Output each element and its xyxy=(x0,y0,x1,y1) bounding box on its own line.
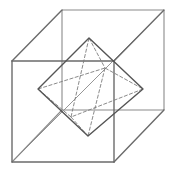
diagram-canvas: Octahedron inscribed in a cube xyxy=(0,0,177,169)
cube-octahedron-figure xyxy=(0,0,177,169)
octahedron-outline xyxy=(38,38,143,136)
octahedron-inner-edges xyxy=(38,38,143,136)
